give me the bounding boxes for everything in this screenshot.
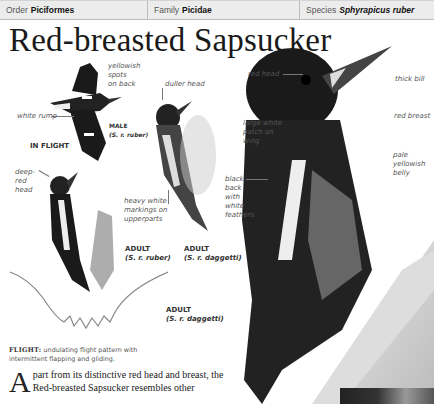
family-cell: Family Picidae <box>148 1 300 19</box>
taxonomy-header: Order Piciformes Family Picidae Species … <box>0 0 434 20</box>
drop-cap: A <box>9 369 31 395</box>
body-paragraph: A part from its distinctive red head and… <box>9 368 224 395</box>
label-pale-yellowish-belly: pale yellowish belly <box>393 151 425 178</box>
order-label: Order <box>6 5 28 15</box>
family-value: Picidae <box>182 5 212 15</box>
label-thick-bill: thick bill <box>395 75 425 84</box>
label-red-head: red head <box>248 70 279 79</box>
label-large-white-patch: large white patch on wing <box>243 119 282 146</box>
main-bird-photo <box>222 40 434 404</box>
species-value: Sphyrapicus ruber <box>339 5 414 15</box>
flight-caption-label: FLIGHT: <box>9 346 42 354</box>
caption-adult-daggetti-large: ADULT (S. r. daggetti) <box>166 306 224 324</box>
order-value: Piciformes <box>31 5 74 15</box>
order-cell: Order Piciformes <box>0 1 148 19</box>
label-yellowish-spots: yellowish spots on back <box>108 62 140 89</box>
label-white-rump: white rump <box>17 112 57 121</box>
species-label: Species <box>306 5 336 15</box>
label-heavy-white-markings: heavy white markings on upperparts <box>124 197 167 224</box>
family-label: Family <box>154 5 179 15</box>
flight-path-diagram <box>8 270 168 332</box>
flight-caption: FLIGHT: undulating flight pattern with i… <box>9 346 149 364</box>
body-text: part from its distinctive red head and b… <box>33 369 224 393</box>
caption-adult-ruber: ADULT (S. r. ruber) <box>125 245 171 263</box>
inset-photo <box>340 388 434 404</box>
species-cell: Species Sphyrapicus ruber <box>300 1 434 19</box>
label-duller-head: duller head <box>165 80 205 89</box>
label-deep-red-head: deep- red head <box>15 168 35 195</box>
label-red-breast: red breast <box>394 112 430 121</box>
caption-in-flight: IN FLIGHT <box>30 142 69 151</box>
label-black-back: black back with white feathers <box>225 175 254 220</box>
caption-male: MALE (S. r. ruber) <box>109 121 148 139</box>
